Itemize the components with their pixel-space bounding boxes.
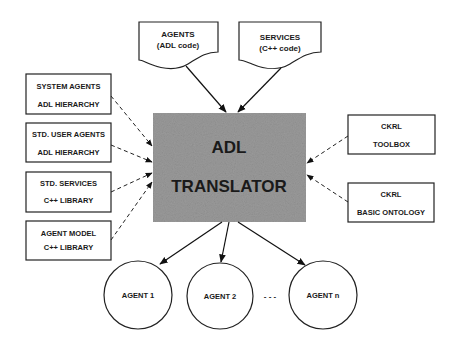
box-label-line2: TOOLBOX [373, 140, 410, 149]
arrow-services-to-translator [238, 68, 281, 112]
agents-adl-code-document: AGENTS (ADL code) [139, 22, 218, 69]
box-label-line2: C++ LIBRARY [44, 243, 93, 252]
translator-label-line1: ADL [212, 138, 247, 157]
box-label-line1: SYSTEM AGENTS [37, 82, 101, 91]
doc-services-line2: (C++ code) [259, 44, 301, 53]
box-label-line2: ADL HIERARCHY [38, 100, 100, 109]
system-agents-box: SYSTEM AGENTS ADL HIERARCHY [26, 74, 111, 114]
doc-agents-line1: AGENTS [161, 30, 195, 39]
agent-label: AGENT 1 [122, 291, 155, 300]
box-label-line1: STD. SERVICES [40, 179, 97, 188]
box-label-line1: CKRL [381, 190, 402, 199]
arrow-to-agent-2 [221, 222, 229, 262]
architecture-diagram: ADL TRANSLATOR AGENTS (ADL code) SERVICE… [0, 0, 461, 350]
ckrl-basic-ontology-box: CKRL BASIC ONTOLOGY [348, 183, 434, 222]
arrow-system-agents [111, 96, 152, 146]
arrow-agents-to-translator [186, 66, 226, 112]
doc-services-line1: SERVICES [260, 33, 301, 42]
box-label-line2: ADL HIERARCHY [38, 148, 100, 157]
adl-translator-box: ADL TRANSLATOR [153, 113, 306, 222]
box-label-line2: C++ LIBRARY [44, 196, 93, 205]
box-label-line1: CKRL [381, 122, 402, 131]
box-label-line1: STD. USER AGENTS [32, 130, 105, 139]
arrow-std-services [111, 173, 152, 192]
box-label-line2: BASIC ONTOLOGY [357, 208, 425, 217]
arrow-ckrl-toolbox [307, 136, 348, 163]
std-user-agents-box: STD. USER AGENTS ADL HIERARCHY [26, 123, 111, 162]
agent-label: AGENT n [307, 291, 340, 300]
arrow-agent-model [111, 182, 152, 240]
std-services-box: STD. SERVICES C++ LIBRARY [26, 172, 111, 212]
arrow-to-agent-n [238, 222, 305, 265]
agent-model-box: AGENT MODEL C++ LIBRARY [26, 221, 111, 260]
ckrl-toolbox-box: CKRL TOOLBOX [348, 115, 435, 154]
ellipsis: - - - [264, 292, 277, 301]
box-label-line1: AGENT MODEL [41, 229, 97, 238]
services-cpp-code-document: SERVICES (C++ code) [239, 22, 321, 69]
agent-1-node: AGENT 1 [104, 261, 172, 329]
arrow-to-agent-1 [160, 222, 222, 264]
doc-agents-line2: (ADL code) [157, 41, 200, 50]
arrow-ckrl-basic-ontology [307, 175, 348, 202]
arrow-std-user-agents [111, 145, 152, 162]
translator-label-line2: TRANSLATOR [171, 177, 287, 196]
agent-label: AGENT 2 [204, 292, 237, 301]
agent-n-node: AGENT n [289, 261, 357, 329]
agent-2-node: AGENT 2 [187, 263, 253, 329]
